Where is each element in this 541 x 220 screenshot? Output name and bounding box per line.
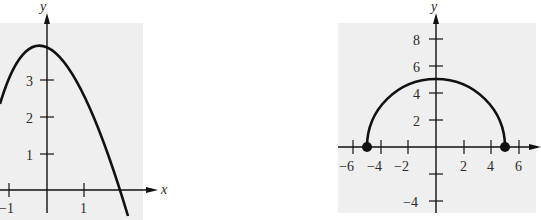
y-tick-label: 2 <box>26 111 33 126</box>
x-tick-label: 1 <box>80 201 87 216</box>
x-tick-label: 6 <box>515 159 522 174</box>
x-tick-label: −4 <box>367 159 382 174</box>
x-tick-label: −6 <box>339 159 354 174</box>
right-graph: y −6 −4 −2 2 4 6 8 6 4 2 −4 <box>300 0 541 220</box>
semicircle-plot: y −6 −4 −2 2 4 6 8 6 4 2 −4 <box>300 0 541 220</box>
y-tick-label: 6 <box>413 60 420 75</box>
y-tick-label: 4 <box>413 87 420 102</box>
y-axis-label: y <box>429 0 438 14</box>
y-tick-label: 1 <box>26 148 33 163</box>
plot-background <box>338 23 536 213</box>
x-tick-label: 4 <box>487 159 494 174</box>
x-tick-label: −2 <box>394 159 409 174</box>
y-axis-label: y <box>38 0 47 14</box>
y-axis-arrow-icon <box>44 13 50 24</box>
x-tick-label: 2 <box>460 159 467 174</box>
x-axis-label: x <box>160 182 168 197</box>
closed-endpoint-left <box>362 142 372 152</box>
left-graph: y x −1 1 3 2 1 <box>0 0 170 220</box>
y-axis-arrow-icon <box>433 13 439 24</box>
parabola-plot: y x −1 1 3 2 1 <box>0 0 170 220</box>
x-axis-arrow-icon <box>146 187 158 193</box>
y-tick-label: −4 <box>403 195 418 210</box>
y-tick-label: 8 <box>413 33 420 48</box>
y-tick-label: 3 <box>26 74 33 89</box>
closed-endpoint-right <box>500 142 510 152</box>
y-tick-label: 2 <box>413 114 420 129</box>
x-tick-label: −1 <box>0 201 14 216</box>
